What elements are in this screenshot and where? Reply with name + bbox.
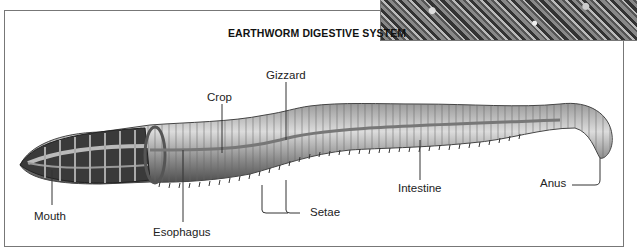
label-esophagus: Esophagus — [153, 226, 211, 238]
label-setae: Setae — [310, 206, 340, 218]
anus-leader — [572, 158, 600, 185]
label-gizzard: Gizzard — [266, 69, 306, 81]
label-anus: Anus — [540, 177, 566, 189]
head-cutaway — [20, 128, 150, 183]
setae-leader — [262, 185, 288, 213]
label-mouth: Mouth — [34, 210, 66, 222]
label-intestine: Intestine — [398, 182, 441, 194]
label-crop: Crop — [207, 91, 232, 103]
